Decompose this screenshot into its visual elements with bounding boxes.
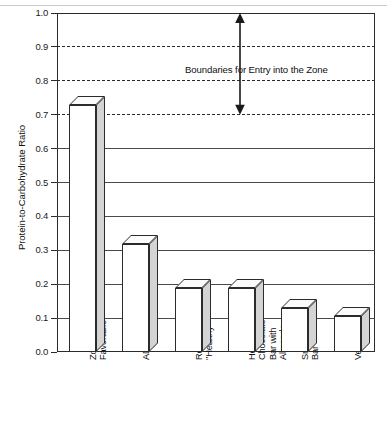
y-axis-tick-0.2 bbox=[51, 284, 57, 285]
y-axis-tick-0.3 bbox=[51, 250, 57, 251]
y-axis-label-0.0: 0.0 bbox=[12, 347, 48, 357]
y-axis-tick-0.9 bbox=[51, 46, 57, 47]
bar-side-face-1 bbox=[149, 235, 158, 352]
bar-side-face-4 bbox=[308, 299, 317, 352]
page-top-rule bbox=[0, 5, 387, 6]
y-axis-label-0.4: 0.4 bbox=[12, 211, 48, 221]
y-axis-label-0.3: 0.3 bbox=[12, 245, 48, 255]
y-axis-tick-0.7 bbox=[51, 114, 57, 115]
bar-1 bbox=[122, 235, 158, 352]
y-axis-label-0.1: 0.1 bbox=[12, 313, 48, 323]
y-axis-label-0.8: 0.8 bbox=[12, 76, 48, 86]
y-axis-tick-0.6 bbox=[51, 148, 57, 149]
y-axis-tick-0.4 bbox=[51, 216, 57, 217]
bar-3 bbox=[228, 279, 264, 352]
zone-boundary-annotation: Boundaries for Entry into the Zone bbox=[185, 64, 328, 75]
bar-side-face-0 bbox=[96, 96, 105, 352]
bar-front-face-3 bbox=[228, 288, 255, 352]
bar-2 bbox=[175, 279, 211, 352]
zone-range-double-arrow bbox=[232, 13, 248, 119]
y-axis-tick-1.0 bbox=[51, 13, 57, 14]
gridline-0.9 bbox=[57, 46, 375, 47]
y-axis-label-0.9: 0.9 bbox=[12, 42, 48, 52]
bar-front-face-0 bbox=[69, 105, 96, 352]
y-axis-label-0.5: 0.5 bbox=[12, 178, 48, 188]
y-axis-label-1.0: 1.0 bbox=[12, 8, 48, 18]
y-axis-tick-0.1 bbox=[51, 318, 57, 319]
y-axis-tick-0.5 bbox=[51, 182, 57, 183]
gridline-0.8 bbox=[57, 80, 375, 81]
bar-side-face-2 bbox=[202, 279, 211, 352]
bar-side-face-3 bbox=[255, 279, 264, 352]
y-axis-label-0.7: 0.7 bbox=[12, 110, 48, 120]
y-axis-label-0.6: 0.6 bbox=[12, 144, 48, 154]
bar-front-face-1 bbox=[122, 244, 149, 352]
bar-front-face-5 bbox=[334, 316, 361, 352]
y-axis-label-0.2: 0.2 bbox=[12, 279, 48, 289]
y-axis-tick-0.8 bbox=[51, 80, 57, 81]
bar-front-face-2 bbox=[175, 288, 202, 352]
bar-side-face-5 bbox=[361, 307, 370, 352]
bar-5 bbox=[334, 307, 370, 352]
bar-0 bbox=[69, 96, 105, 352]
protein-carb-ratio-bar-chart: Protein-to-Carbohydrate Ratio 0.00.10.20… bbox=[0, 0, 387, 439]
bar-4 bbox=[281, 299, 317, 352]
bar-front-face-4 bbox=[281, 308, 308, 352]
y-axis-tick-0.0 bbox=[51, 352, 57, 353]
